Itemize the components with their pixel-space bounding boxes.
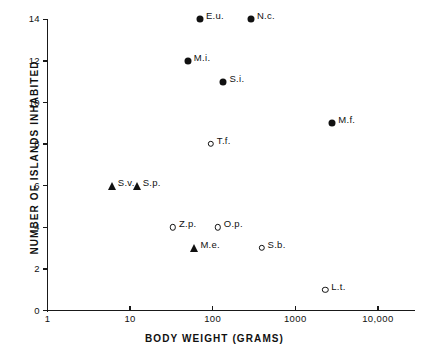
x-tick-mark bbox=[47, 306, 48, 311]
open-circle-marker-icon bbox=[215, 224, 221, 230]
triangle-marker-icon bbox=[133, 182, 141, 190]
data-point-label: M.f. bbox=[338, 114, 355, 125]
y-tick-mark bbox=[43, 60, 48, 61]
x-tick-label: 100 bbox=[183, 313, 243, 324]
data-point-label: O.p. bbox=[224, 218, 243, 229]
data-point-label: S.b. bbox=[268, 239, 286, 250]
data-point-label: Z.p. bbox=[179, 218, 197, 229]
scatter-plot-figure: 02468101214 110100100010,000 E.u.N.c.M.i… bbox=[0, 0, 429, 357]
data-point-label: S.i. bbox=[229, 73, 244, 84]
data-point-label: N.c. bbox=[257, 10, 275, 21]
open-circle-marker-icon bbox=[322, 286, 328, 292]
y-tick-mark bbox=[43, 185, 48, 186]
filled-circle-marker-icon bbox=[247, 16, 254, 23]
x-tick-label: 10 bbox=[100, 313, 160, 324]
x-tick-mark bbox=[129, 306, 130, 311]
triangle-marker-icon bbox=[190, 244, 198, 252]
x-tick-mark bbox=[212, 306, 213, 311]
y-tick-mark bbox=[43, 143, 48, 144]
triangle-marker-icon bbox=[108, 182, 116, 190]
y-tick-mark bbox=[43, 102, 48, 103]
y-tick-mark bbox=[43, 19, 48, 20]
open-circle-marker-icon bbox=[170, 224, 176, 230]
data-point-label: M.e. bbox=[200, 239, 220, 250]
y-tick-label: 14 bbox=[12, 13, 40, 24]
open-circle-marker-icon bbox=[208, 141, 214, 147]
x-tick-mark bbox=[295, 306, 296, 311]
y-tick-mark bbox=[43, 268, 48, 269]
open-circle-marker-icon bbox=[258, 245, 264, 251]
x-tick-label: 1 bbox=[18, 313, 78, 324]
filled-circle-marker-icon bbox=[329, 120, 336, 127]
data-point-label: E.u. bbox=[206, 10, 224, 21]
x-tick-mark bbox=[377, 306, 378, 311]
filled-circle-marker-icon bbox=[196, 16, 203, 23]
data-point-label: S.p. bbox=[143, 177, 161, 188]
x-axis-title: BODY WEIGHT (GRAMS) bbox=[0, 333, 429, 344]
data-point-label: M.i. bbox=[194, 52, 211, 63]
x-tick-label: 1000 bbox=[265, 313, 325, 324]
filled-circle-marker-icon bbox=[220, 78, 227, 85]
x-axis-line bbox=[47, 310, 415, 311]
y-tick-mark bbox=[43, 227, 48, 228]
data-point-label: L.t. bbox=[331, 281, 345, 292]
y-axis-title: NUMBER OF ISLANDS INHABITED bbox=[29, 28, 40, 288]
data-point-label: T.f. bbox=[217, 135, 231, 146]
filled-circle-marker-icon bbox=[184, 57, 191, 64]
x-tick-label: 10,000 bbox=[348, 313, 408, 324]
